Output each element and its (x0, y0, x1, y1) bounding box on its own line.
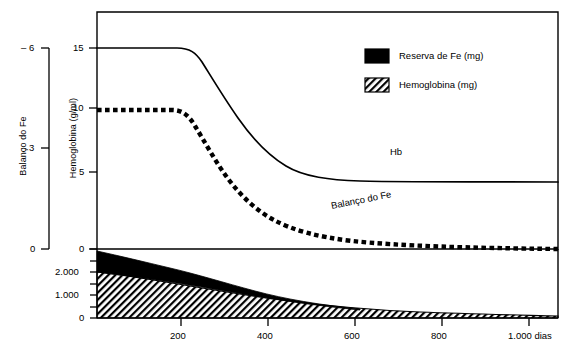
x-tick-label-800: 800 (431, 330, 447, 341)
balanco-tick-label-neg6: – 6 (21, 42, 34, 53)
balanco-do-fe-axis (41, 48, 49, 249)
reservas-tick-label-1000: 1.000 (55, 289, 79, 300)
x-tick-label-200: 200 (170, 330, 186, 341)
chart-canvas (0, 0, 574, 360)
hb-curve-label: Hb (390, 146, 402, 157)
x-tick-label-400: 400 (257, 330, 273, 341)
balanco-do-fe-curve (97, 110, 558, 249)
legend-swatch-reserva-de-fe (365, 49, 389, 63)
hemoglobina-tick-label-0-upper: 0 (79, 243, 84, 254)
hemoglobina-tick-label-10: 10 (73, 102, 84, 113)
reservas-tick-label-2000: 2.000 (55, 266, 79, 277)
chart-figure: Balanço do Fe Hemoglobina (g/ml) – 6 – 3… (0, 0, 574, 360)
balanco-tick-label-neg3: – 3 (21, 142, 34, 153)
legend-swatches (365, 49, 389, 92)
reservas-tick-label-0: 0 (79, 312, 84, 323)
hemoglobina-tick-label-15: 15 (73, 42, 84, 53)
balanco-tick-label-0: 0 (30, 243, 35, 254)
hemoglobina-tick-label-5: 5 (79, 166, 84, 177)
hemoglobina-axis-ticks (89, 48, 97, 249)
x-tick-label-600: 600 (344, 330, 360, 341)
legend-swatch-hemoglobina (365, 78, 389, 92)
x-tick-label-1000-dias: 1.000 dias (508, 330, 552, 341)
legend-label-hemoglobina: Hemoglobina (mg) (399, 79, 477, 90)
legend-label-reserva-de-fe: Reserva de Fe (mg) (399, 50, 483, 61)
hb-curve (97, 48, 558, 182)
lower-panel-areas (97, 251, 558, 318)
